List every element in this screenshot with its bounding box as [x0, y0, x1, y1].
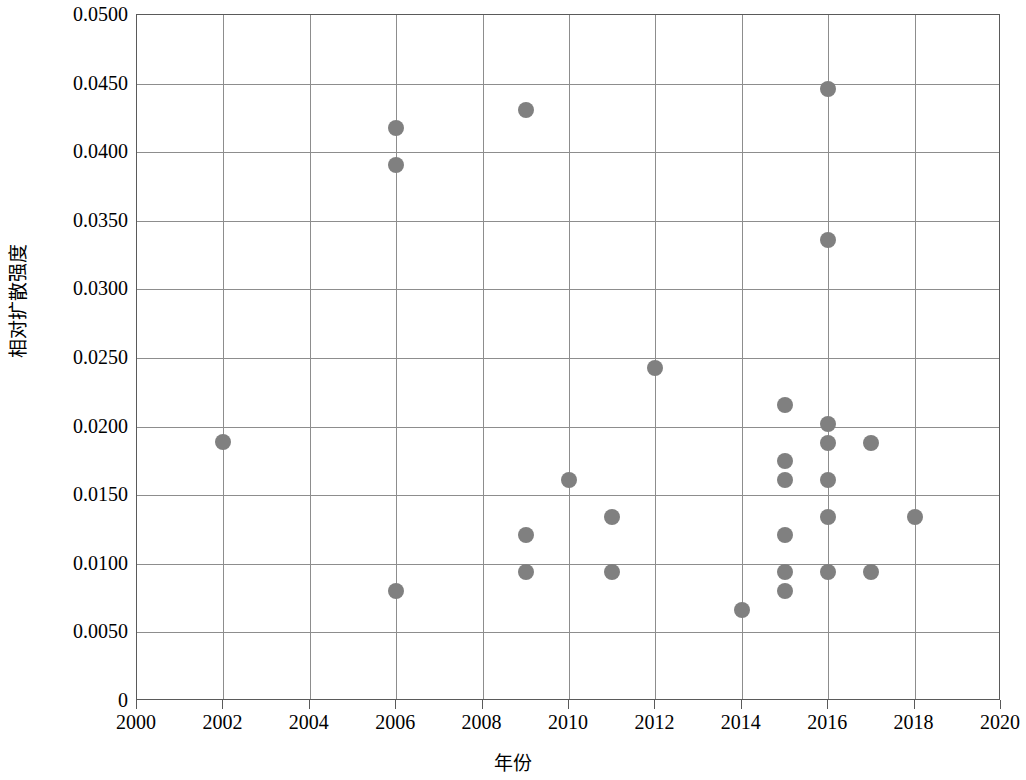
x-tick-label: 2000 — [96, 712, 176, 732]
gridline-vertical — [742, 15, 743, 699]
data-point — [647, 360, 663, 376]
y-tick-label: 0.0400 — [8, 141, 128, 161]
data-point — [777, 564, 793, 580]
gridline-vertical — [223, 15, 224, 699]
gridline-horizontal — [137, 221, 999, 222]
y-axis-title: 相对扩散强度 — [7, 231, 29, 371]
x-tick-mark — [827, 700, 828, 709]
x-tick-label: 2018 — [874, 712, 954, 732]
data-point — [820, 416, 836, 432]
x-tick-label: 2020 — [960, 712, 1026, 732]
data-point — [777, 472, 793, 488]
data-point — [777, 527, 793, 543]
data-point — [907, 509, 923, 525]
y-tick-label: 0.0050 — [8, 621, 128, 641]
x-tick-label: 2006 — [355, 712, 435, 732]
gridline-horizontal — [137, 427, 999, 428]
x-tick-mark — [482, 700, 483, 709]
y-tick-label: 0.0500 — [8, 4, 128, 24]
x-tick-label: 2012 — [614, 712, 694, 732]
x-tick-mark — [222, 700, 223, 709]
x-tick-mark — [568, 700, 569, 709]
scatter-chart: 00.00500.01000.01500.02000.02500.03000.0… — [0, 0, 1026, 780]
gridline-horizontal — [137, 495, 999, 496]
x-tick-label: 2008 — [442, 712, 522, 732]
y-tick-label: 0.0450 — [8, 73, 128, 93]
plot-area — [136, 14, 1000, 700]
gridline-vertical — [310, 15, 311, 699]
x-tick-label: 2010 — [528, 712, 608, 732]
data-point — [388, 157, 404, 173]
data-point — [518, 102, 534, 118]
data-point — [820, 232, 836, 248]
gridline-vertical — [915, 15, 916, 699]
data-point — [777, 453, 793, 469]
data-point — [777, 397, 793, 413]
y-tick-label: 0 — [8, 690, 128, 710]
gridline-horizontal — [137, 358, 999, 359]
x-tick-mark — [309, 700, 310, 709]
gridline-horizontal — [137, 632, 999, 633]
data-point — [388, 583, 404, 599]
x-tick-mark — [1000, 700, 1001, 709]
data-point — [518, 527, 534, 543]
data-point — [215, 434, 231, 450]
x-axis-title: 年份 — [0, 752, 1026, 774]
data-point — [734, 602, 750, 618]
x-tick-mark — [395, 700, 396, 709]
gridline-vertical — [655, 15, 656, 699]
x-tick-label: 2014 — [701, 712, 781, 732]
data-point — [388, 120, 404, 136]
y-tick-label: 0.0200 — [8, 416, 128, 436]
x-tick-mark — [136, 700, 137, 709]
gridline-vertical — [483, 15, 484, 699]
data-point — [518, 564, 534, 580]
gridline-horizontal — [137, 289, 999, 290]
data-point — [604, 509, 620, 525]
x-tick-mark — [654, 700, 655, 709]
y-tick-label: 0.0150 — [8, 484, 128, 504]
data-point — [820, 509, 836, 525]
gridline-vertical — [828, 15, 829, 699]
gridline-horizontal — [137, 84, 999, 85]
data-point — [863, 564, 879, 580]
x-tick-label: 2004 — [269, 712, 349, 732]
data-point — [561, 472, 577, 488]
y-tick-label: 0.0100 — [8, 553, 128, 573]
data-point — [863, 435, 879, 451]
data-point — [820, 472, 836, 488]
x-tick-label: 2016 — [787, 712, 867, 732]
x-tick-label: 2002 — [182, 712, 262, 732]
y-tick-label: 0.0350 — [8, 210, 128, 230]
data-point — [820, 435, 836, 451]
data-point — [820, 564, 836, 580]
data-point — [820, 81, 836, 97]
data-point — [604, 564, 620, 580]
x-tick-mark — [914, 700, 915, 709]
data-point — [777, 583, 793, 599]
x-tick-mark — [741, 700, 742, 709]
gridline-vertical — [569, 15, 570, 699]
gridline-horizontal — [137, 152, 999, 153]
